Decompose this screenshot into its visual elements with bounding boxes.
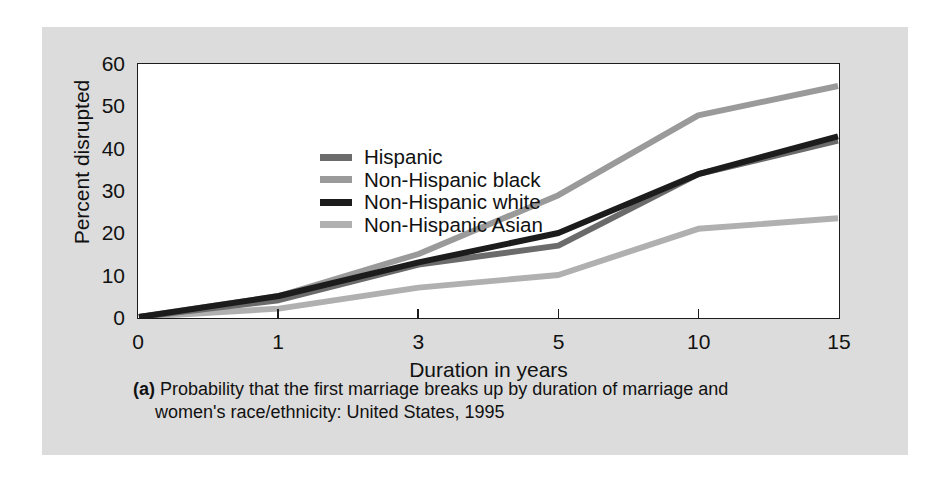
legend-item: Non-Hispanic Asian [320,214,543,237]
x-tick-label: 0 [108,331,168,352]
legend-item: Non-Hispanic white [320,191,543,214]
y-tick-label: 50 [79,95,125,116]
plot-area: HispanicNon-Hispanic blackNon-Hispanic w… [137,63,840,319]
legend-label: Non-Hispanic white [364,192,541,213]
x-tick-mark [417,309,419,318]
caption-line-2: women's race/ethnicity: United States, 1… [155,401,833,424]
legend-label: Hispanic [364,147,443,168]
legend-item: Hispanic [320,146,543,169]
legend: HispanicNon-Hispanic blackNon-Hispanic w… [320,146,543,236]
caption-tag: (a) [133,379,155,399]
legend-label: Non-Hispanic Asian [364,215,543,236]
y-tick-label: 20 [79,222,125,243]
y-tick-label: 10 [79,265,125,286]
y-tick-label: 30 [79,180,125,201]
x-tick-mark [558,309,560,318]
y-tick-label: 0 [79,307,125,328]
x-tick-label: 3 [388,331,448,352]
legend-swatch-icon [320,154,352,161]
x-tick-label: 10 [669,331,729,352]
x-tick-mark [277,309,279,318]
legend-label: Non-Hispanic black [364,170,541,191]
caption-line-1: Probability that the first marriage brea… [160,379,728,399]
legend-swatch-icon [320,176,352,183]
y-tick-label: 60 [79,53,125,74]
legend-item: Non-Hispanic black [320,169,543,192]
x-tick-label: 15 [809,331,869,352]
x-tick-label: 1 [248,331,308,352]
legend-swatch-icon [320,221,352,228]
x-tick-label: 5 [529,331,589,352]
y-tick-label: 40 [79,138,125,159]
figure-caption: (a) Probability that the first marriage … [133,378,833,424]
legend-swatch-icon [320,199,352,206]
figure-panel-a: Percent disrupted 0102030405060 Hispanic… [0,0,952,484]
x-tick-mark [698,309,700,318]
